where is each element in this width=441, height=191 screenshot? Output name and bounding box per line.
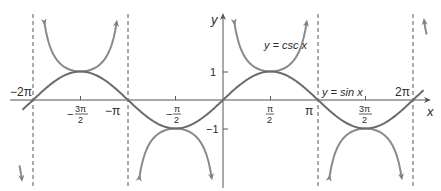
svg-text:2: 2 (267, 115, 272, 125)
svg-text:π: π (174, 104, 180, 114)
svg-text:2: 2 (362, 115, 367, 125)
svg-text:π: π (267, 104, 273, 114)
tick-label-pi: π (305, 104, 313, 118)
csc-label: y = csc x (263, 39, 308, 51)
tick-label-neg-pi-2: − π 2 (166, 104, 181, 125)
tick-label-3pi-2: 3π 2 (359, 104, 372, 125)
trig-graph: x y −2π −π π 2π − 3π 2 − π 2 π 2 3π 2 1 … (0, 0, 441, 191)
svg-text:3π: 3π (75, 104, 86, 114)
y-tick-label-neg-1: −1 (206, 123, 219, 135)
tick-label-neg-3pi-2: − 3π 2 (67, 104, 88, 125)
y-tick-label-1: 1 (210, 66, 216, 78)
svg-text:3π: 3π (359, 104, 370, 114)
sin-label: y = sin x (321, 86, 363, 98)
tick-label-neg-2pi: −2π (10, 85, 32, 99)
y-axis-label: y (210, 12, 219, 27)
svg-text:2: 2 (174, 115, 179, 125)
tick-label-2pi: 2π (395, 85, 410, 99)
svg-text:−: − (67, 108, 73, 120)
tick-label-pi-2: π 2 (266, 104, 274, 125)
svg-text:2: 2 (78, 115, 83, 125)
svg-text:−: − (166, 108, 172, 120)
x-axis-label: x (426, 104, 434, 119)
tick-label-neg-pi: −π (105, 104, 120, 118)
